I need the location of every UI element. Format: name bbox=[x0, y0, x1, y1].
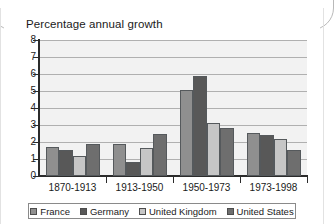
legend-item-united-kingdom[interactable]: United Kingdom bbox=[139, 206, 217, 217]
x-axis-separator bbox=[240, 177, 241, 183]
bar-germany bbox=[260, 135, 274, 176]
chart-container: Percentage annual growth 012345678 1870-… bbox=[4, 14, 320, 220]
legend-label: Germany bbox=[90, 206, 129, 217]
legend-swatch-icon bbox=[30, 208, 37, 215]
bar-france bbox=[180, 90, 194, 176]
legend-swatch-icon bbox=[139, 208, 146, 215]
bar-group bbox=[39, 40, 106, 176]
chart-title: Percentage annual growth bbox=[26, 18, 163, 30]
bar-united-kingdom bbox=[207, 123, 221, 176]
x-axis-tick-label: 1870-1913 bbox=[39, 182, 106, 193]
bar-france bbox=[113, 144, 127, 176]
bar-united-states bbox=[287, 150, 301, 176]
bar-united-states bbox=[220, 128, 234, 176]
legend-swatch-icon bbox=[80, 208, 87, 215]
bar-germany bbox=[126, 162, 140, 176]
bar-group bbox=[106, 40, 173, 176]
x-axis-separator bbox=[106, 177, 107, 183]
legend-swatch-icon bbox=[227, 208, 234, 215]
x-axis-tick-label: 1973-1998 bbox=[240, 182, 307, 193]
x-axis-separator bbox=[173, 177, 174, 183]
bar-germany bbox=[59, 150, 73, 176]
page-left-border bbox=[0, 8, 1, 224]
bar-united-kingdom bbox=[274, 139, 288, 176]
bar-united-kingdom bbox=[73, 156, 87, 176]
legend-item-germany[interactable]: Germany bbox=[80, 206, 129, 217]
bar-germany bbox=[193, 76, 207, 176]
legend-label: France bbox=[40, 206, 70, 217]
y-axis-labels: 012345678 bbox=[8, 14, 36, 214]
chart-legend: FranceGermanyUnited KingdomUnited States bbox=[28, 203, 296, 219]
bar-group bbox=[173, 40, 240, 176]
bar-france bbox=[247, 133, 261, 176]
legend-label: United States bbox=[237, 206, 294, 217]
bar-united-states bbox=[86, 144, 100, 176]
bar-group bbox=[240, 40, 307, 176]
legend-item-france[interactable]: France bbox=[30, 206, 70, 217]
x-axis-tick-label: 1950-1973 bbox=[173, 182, 240, 193]
bar-united-kingdom bbox=[140, 148, 154, 176]
page-right-border bbox=[323, 8, 324, 224]
legend-label: United Kingdom bbox=[149, 206, 217, 217]
bar-united-states bbox=[153, 134, 167, 176]
x-axis-tick-label: 1913-1950 bbox=[106, 182, 173, 193]
legend-item-united-states[interactable]: United States bbox=[227, 206, 294, 217]
x-axis-separator bbox=[307, 177, 308, 183]
bar-france bbox=[46, 147, 60, 176]
